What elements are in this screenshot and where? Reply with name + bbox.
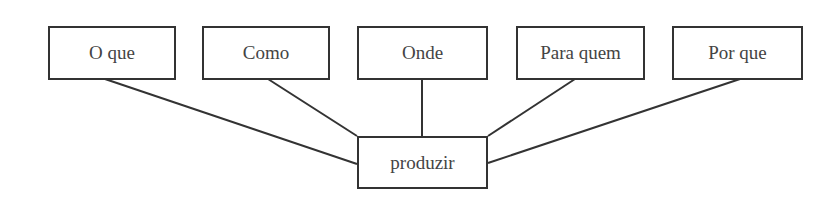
node-label: Onde (402, 42, 443, 64)
node-label: produzir (390, 152, 454, 174)
node-label: Para quem (540, 42, 621, 64)
link-o-que (105, 79, 357, 164)
node-label: Por que (708, 42, 767, 64)
node-produzir: produzir (357, 136, 488, 189)
node-o-que: O que (48, 26, 176, 80)
link-por-que (488, 79, 740, 163)
node-como: Como (202, 26, 330, 80)
link-para-quem (488, 79, 575, 136)
node-label: Como (243, 42, 289, 64)
node-por-que: Por que (672, 26, 803, 80)
node-label: O que (89, 42, 135, 64)
node-para-quem: Para quem (516, 26, 645, 80)
link-como (268, 79, 357, 136)
node-onde: Onde (357, 26, 488, 80)
